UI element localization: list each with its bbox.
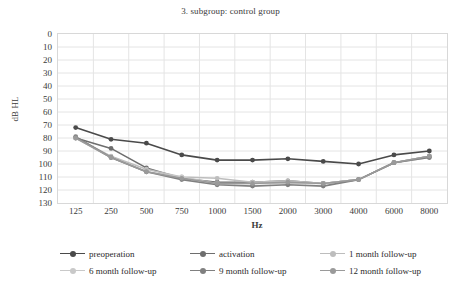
legend-label: preoperation — [89, 249, 134, 259]
legend-marker-dot-icon — [70, 268, 76, 274]
data-point — [109, 137, 114, 142]
series-preoperation — [73, 125, 431, 166]
x-tick-label: 6000 — [374, 206, 414, 216]
y-tick-label: 30 — [26, 69, 52, 78]
legend-marker-dot-icon — [330, 251, 336, 257]
chart-title: 3. subgroup: control group — [0, 6, 461, 16]
data-point — [427, 149, 432, 154]
y-tick-label: 70 — [26, 121, 52, 130]
plot-area — [57, 33, 448, 204]
legend-marker-dot-icon — [330, 268, 336, 274]
legend-label: 6 month follow-up — [89, 266, 157, 276]
data-point — [215, 176, 220, 181]
data-point — [250, 181, 255, 186]
y-tick-label: 10 — [26, 43, 52, 52]
data-point — [144, 169, 149, 174]
series-layer — [73, 125, 431, 188]
x-tick-label: 8000 — [409, 206, 449, 216]
y-tick-label: 60 — [26, 108, 52, 117]
plot-svg — [58, 34, 447, 203]
legend-swatch-icon — [320, 249, 345, 258]
audiogram-chart: 3. subgroup: control group dB HL 0102030… — [0, 0, 461, 290]
data-point — [321, 159, 326, 164]
x-tick-label: 2000 — [268, 206, 308, 216]
legend-label: activation — [219, 249, 255, 259]
legend-item-activation[interactable]: activation — [190, 245, 320, 262]
legend-swatch-icon — [190, 266, 215, 275]
x-tick-label: 3000 — [303, 206, 343, 216]
data-point — [392, 160, 397, 165]
legend-swatch-icon — [190, 249, 215, 258]
data-point — [250, 158, 255, 163]
x-tick-label: 250 — [91, 206, 131, 216]
legend-item-12-month-follow-up[interactable]: 12 month follow-up — [320, 262, 450, 279]
data-point — [179, 153, 184, 158]
data-point — [109, 155, 114, 160]
data-point — [73, 136, 78, 141]
data-point — [109, 146, 114, 151]
y-tick-label: 130 — [26, 199, 52, 208]
x-tick-label: 1500 — [233, 206, 273, 216]
legend-swatch-icon — [60, 249, 85, 258]
x-axis-title: Hz — [57, 220, 457, 230]
legend-label: 1 month follow-up — [349, 249, 417, 259]
data-point — [285, 180, 290, 185]
data-point — [356, 162, 361, 167]
legend-marker-dot-icon — [70, 251, 76, 257]
legend-swatch-icon — [60, 266, 85, 275]
x-tick-label: 1000 — [197, 206, 237, 216]
gridlines — [58, 34, 447, 203]
legend-item-6-month-follow-up[interactable]: 6 month follow-up — [60, 262, 190, 279]
data-point — [392, 153, 397, 158]
y-axis-title: dB HL — [10, 81, 20, 137]
y-tick-label: 0 — [26, 30, 52, 39]
legend-item-1-month-follow-up[interactable]: 1 month follow-up — [320, 245, 450, 262]
data-point — [215, 181, 220, 186]
chart-legend: preoperationactivation1 month follow-up6… — [60, 245, 450, 279]
x-tick-label: 750 — [162, 206, 202, 216]
y-tick-label: 50 — [26, 95, 52, 104]
x-tick-label: 500 — [126, 206, 166, 216]
data-point — [144, 141, 149, 146]
y-tick-label: 20 — [26, 56, 52, 65]
data-point — [73, 125, 78, 130]
data-point — [285, 156, 290, 161]
y-tick-label: 80 — [26, 134, 52, 143]
x-tick-label: 125 — [56, 206, 96, 216]
y-tick-label: 120 — [26, 186, 52, 195]
y-tick-label: 90 — [26, 147, 52, 156]
data-point — [179, 176, 184, 181]
legend-marker-dot-icon — [200, 268, 206, 274]
y-tick-label: 40 — [26, 82, 52, 91]
data-point — [356, 177, 361, 182]
y-tick-label: 100 — [26, 160, 52, 169]
legend-label: 9 month follow-up — [219, 266, 287, 276]
data-point — [215, 158, 220, 163]
data-point — [427, 154, 432, 159]
legend-item-9-month-follow-up[interactable]: 9 month follow-up — [190, 262, 320, 279]
legend-label: 12 month follow-up — [349, 266, 421, 276]
x-tick-label: 4000 — [339, 206, 379, 216]
legend-swatch-icon — [320, 266, 345, 275]
data-point — [321, 181, 326, 186]
legend-marker-dot-icon — [200, 251, 206, 257]
legend-item-preoperation[interactable]: preoperation — [60, 245, 190, 262]
y-tick-label: 110 — [26, 173, 52, 182]
